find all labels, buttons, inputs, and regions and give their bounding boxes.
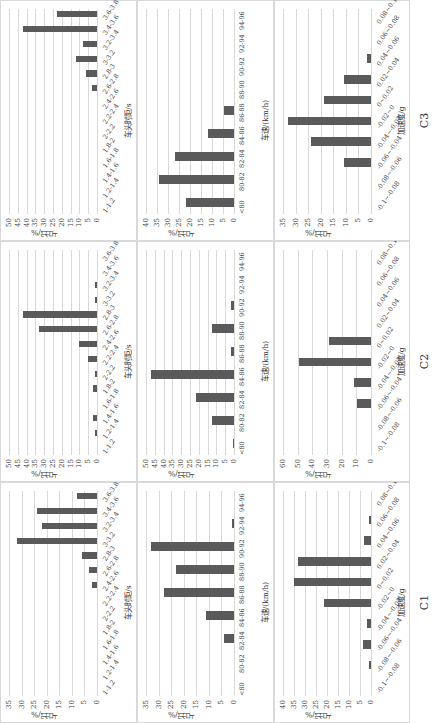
gridline [234, 250, 235, 455]
y-tick-label: 10 [68, 700, 76, 720]
x-tick-label: 82-84 [238, 390, 246, 409]
y-tick-label: 0 [93, 459, 101, 479]
gridline [327, 250, 328, 455]
bar [37, 508, 97, 514]
bar [88, 356, 97, 362]
bar [364, 536, 371, 545]
gridline [360, 491, 361, 696]
x-axis-label: 加速度/g [395, 1, 406, 240]
y-tick-label: 5 [80, 700, 88, 720]
bar [344, 158, 371, 167]
y-tick-label: 10 [345, 700, 353, 720]
y-tick-label: 10 [212, 459, 220, 479]
gridline [349, 491, 350, 696]
y-tick-label: 25 [167, 700, 175, 720]
plot-area: 05101520253035404550<8080-8282-8484-8686… [146, 250, 234, 455]
x-tick-label: 2-2.2 [101, 122, 117, 140]
y-tick-label: 40 [160, 459, 168, 479]
bar [39, 326, 97, 332]
bar [367, 54, 371, 63]
y-tick-label: 10 [75, 459, 83, 479]
gridline [172, 250, 173, 455]
gridline [9, 9, 10, 214]
y-tick-label: 0 [93, 218, 101, 238]
bar [92, 85, 97, 91]
y-tick-label: 30 [177, 459, 185, 479]
y-tick-label: 15 [197, 218, 205, 238]
bar [344, 75, 371, 84]
bar [231, 301, 234, 311]
y-tick-label: 25 [49, 218, 57, 238]
bar [324, 599, 371, 608]
y-tick-label: 50 [5, 459, 13, 479]
gridline [371, 250, 372, 455]
y-tick-label: 35 [290, 700, 298, 720]
figure-rotated: 占比/%051015202530351-1.21.2-1.41.4-1.61.6… [0, 0, 446, 723]
gridline [294, 491, 295, 696]
gridline [59, 491, 60, 696]
bar [367, 619, 371, 628]
y-tick-label: 35 [5, 700, 13, 720]
bar [212, 416, 234, 426]
gridline [338, 491, 339, 696]
x-tick-label: 84-86 [238, 608, 246, 627]
gridline [146, 250, 147, 455]
gridline [312, 250, 313, 455]
bar [95, 430, 97, 436]
x-tick-label: 90-92 [238, 298, 246, 317]
gridline [35, 9, 36, 214]
gridline [88, 250, 89, 455]
y-tick-label: 0 [230, 700, 238, 720]
gridline [53, 9, 54, 214]
y-tick-label: 40 [142, 218, 150, 238]
gridline [283, 491, 284, 696]
y-tick-label: 20 [43, 700, 51, 720]
bar [369, 661, 371, 670]
y-tick-label: 35 [142, 700, 150, 720]
y-tick-label: 25 [186, 459, 194, 479]
x-tick-label: 80-82 [238, 654, 246, 673]
bar [299, 358, 371, 367]
y-tick-label: 30 [40, 459, 48, 479]
x-axis-label: 车头时距/s [122, 1, 133, 240]
y-tick-label: 20 [186, 218, 194, 238]
y-tick-label: 45 [14, 218, 22, 238]
gridline [190, 250, 191, 455]
gridline [155, 250, 156, 455]
x-tick-label: 90-92 [238, 539, 246, 558]
chart-c1-acceleration: 占比/%0510152025303540-0.1~-0.08-0.08~-0.0… [274, 482, 410, 723]
y-tick-label: 15 [67, 218, 75, 238]
gridline [327, 491, 328, 696]
gridline [283, 9, 284, 214]
chart-c1-speed: 占比/%05101520253035<8080-8282-8484-8686-8… [137, 482, 274, 723]
gridline [44, 250, 45, 455]
x-tick-label: 3-3.2 [101, 48, 117, 66]
gridline [71, 250, 72, 455]
x-axis-label: 车速/(km/h) [259, 483, 270, 722]
bar [329, 337, 371, 346]
bar [232, 519, 235, 529]
gridline [35, 250, 36, 455]
bar [93, 415, 97, 421]
gridline [62, 9, 63, 214]
gridline [164, 250, 165, 455]
x-tick-label: 92-94 [238, 275, 246, 294]
gridline [53, 250, 54, 455]
x-tick-label: 2-2.2 [101, 363, 117, 381]
bar [95, 371, 97, 377]
gridline [181, 250, 182, 455]
x-tick-label: 80-82 [238, 413, 246, 432]
gridline [308, 9, 309, 214]
chart-c3-headway: 占比/%051015202530354045501-1.21.2-1.41.4-… [0, 0, 137, 241]
gridline [159, 491, 160, 696]
y-tick-label: 35 [279, 218, 287, 238]
y-tick-label: 0 [230, 218, 238, 238]
gridline [356, 250, 357, 455]
y-tick-label: 20 [195, 459, 203, 479]
gridline [18, 9, 19, 214]
y-tick-label: 15 [329, 218, 337, 238]
y-tick-label: 20 [317, 218, 325, 238]
bar [369, 516, 371, 525]
x-tick-label: 88-90 [238, 80, 246, 99]
y-tick-label: 30 [301, 700, 309, 720]
